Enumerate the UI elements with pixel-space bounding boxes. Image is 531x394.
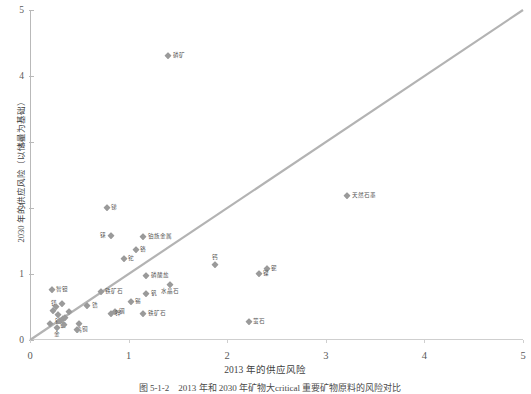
- y-axis-tick: 1: [29, 274, 34, 275]
- x-axis-tick-label: 0: [27, 350, 32, 361]
- data-point-label: 磷矿: [173, 53, 185, 59]
- y-axis-tick-label: 3: [19, 137, 24, 147]
- x-axis-label: 2013 年的供应风险: [100, 362, 430, 376]
- y-axis-tick: 3: [29, 142, 34, 143]
- x-axis-tick-label: 1: [126, 350, 131, 361]
- y-axis-tick-label: 1: [19, 269, 24, 279]
- y-axis-tick-label: 0: [19, 335, 24, 345]
- data-point-label: 铁矿石: [105, 290, 123, 296]
- y-axis-tick-label: 5: [19, 5, 24, 15]
- data-point-label: 锑: [111, 205, 117, 211]
- data-point-label: 萤石: [253, 319, 265, 325]
- data-point-label: 锆: [92, 303, 98, 309]
- data-point-label: 铂族金属: [148, 234, 172, 240]
- data-point-label: 镍: [263, 271, 269, 277]
- x-axis-tick-label: 4: [422, 350, 427, 361]
- x-axis-tick-label: 2: [225, 350, 230, 361]
- x-axis-tick: 3: [326, 340, 327, 343]
- data-point-label: 锌: [115, 311, 121, 317]
- data-point-label: 铁矿石: [148, 311, 166, 317]
- figure-caption: 图 5-1-2 2013 年和 2030 年矿物大critical 重要矿物原料…: [40, 381, 500, 394]
- data-point-label: 钙: [212, 256, 218, 262]
- y-axis-label-wrapper: 2030 年的供应风险（以储量为基础）: [0, 0, 18, 340]
- y-axis-tick: 5: [29, 10, 34, 11]
- x-axis-tick-label: 5: [520, 350, 525, 361]
- y-axis-label: 2030 年的供应风险（以储量为基础）: [14, 0, 26, 340]
- data-point-label: 金: [54, 332, 60, 338]
- y-axis-tick: 2: [29, 208, 34, 209]
- data-point-label: 水晶石: [161, 289, 179, 295]
- y-axis-tick-label: 4: [19, 71, 24, 81]
- y-axis-tick-label: 2: [19, 203, 24, 213]
- data-point-label: 天然石墨: [352, 193, 376, 199]
- data-point-label: 智钽: [56, 287, 68, 293]
- y-axis-tick: 4: [29, 76, 34, 77]
- data-point-label: 磷酸盐: [151, 273, 169, 279]
- data-point-label: 铬: [140, 247, 146, 253]
- data-point-label: 铼: [100, 233, 106, 239]
- data-point-label: 铜: [82, 327, 88, 333]
- x-axis-tick: 5: [523, 340, 524, 343]
- data-point-label: 钒: [151, 291, 157, 297]
- x-axis-tick: 2: [227, 340, 228, 343]
- x-axis-tick: 1: [129, 340, 130, 343]
- x-axis-tick-label: 3: [323, 350, 328, 361]
- x-axis-tick: 0: [30, 340, 31, 343]
- plot-area: 012345 012345 磷矿天然石墨锑铼铂族金属铬铊钙铌镍磷酸盐水晶石智钽铁…: [30, 10, 523, 340]
- data-point-label: 锡: [135, 299, 141, 305]
- data-point-label: 铌: [271, 266, 277, 272]
- x-axis-tick: 4: [424, 340, 425, 343]
- data-point-label: 铊: [128, 257, 134, 263]
